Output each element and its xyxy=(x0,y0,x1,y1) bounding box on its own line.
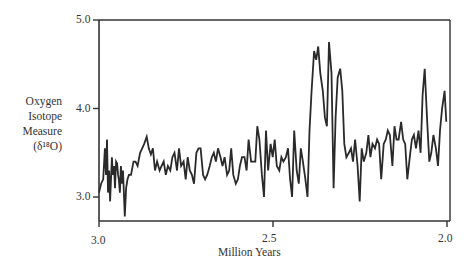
x-tick-label-2-5: 2.5 xyxy=(262,232,276,244)
y-tick-label-5: 5.0 xyxy=(76,13,90,25)
plot-frame xyxy=(99,20,450,221)
y-tick-label-3: 3.0 xyxy=(76,190,90,202)
y-axis-title-line: (δ¹⁸O) xyxy=(0,139,62,154)
y-axis-title: Oxygen Isotope Measure (δ¹⁸O) xyxy=(0,94,62,154)
y-axis-title-line: Isotope xyxy=(0,109,62,124)
isotope-series-line xyxy=(99,42,446,216)
y-axis-title-line: Oxygen xyxy=(0,94,62,109)
y-tick-label-4: 4.0 xyxy=(76,102,90,114)
y-axis-title-line: Measure xyxy=(0,124,62,139)
x-tick-label-2: 2.0 xyxy=(438,232,452,244)
y-axis-ticks xyxy=(93,20,99,197)
x-axis-ticks xyxy=(99,221,447,227)
x-tick-label-3: 3.0 xyxy=(91,234,105,246)
x-axis-title: Million Years xyxy=(218,246,281,258)
oxygen-isotope-chart xyxy=(0,0,475,273)
